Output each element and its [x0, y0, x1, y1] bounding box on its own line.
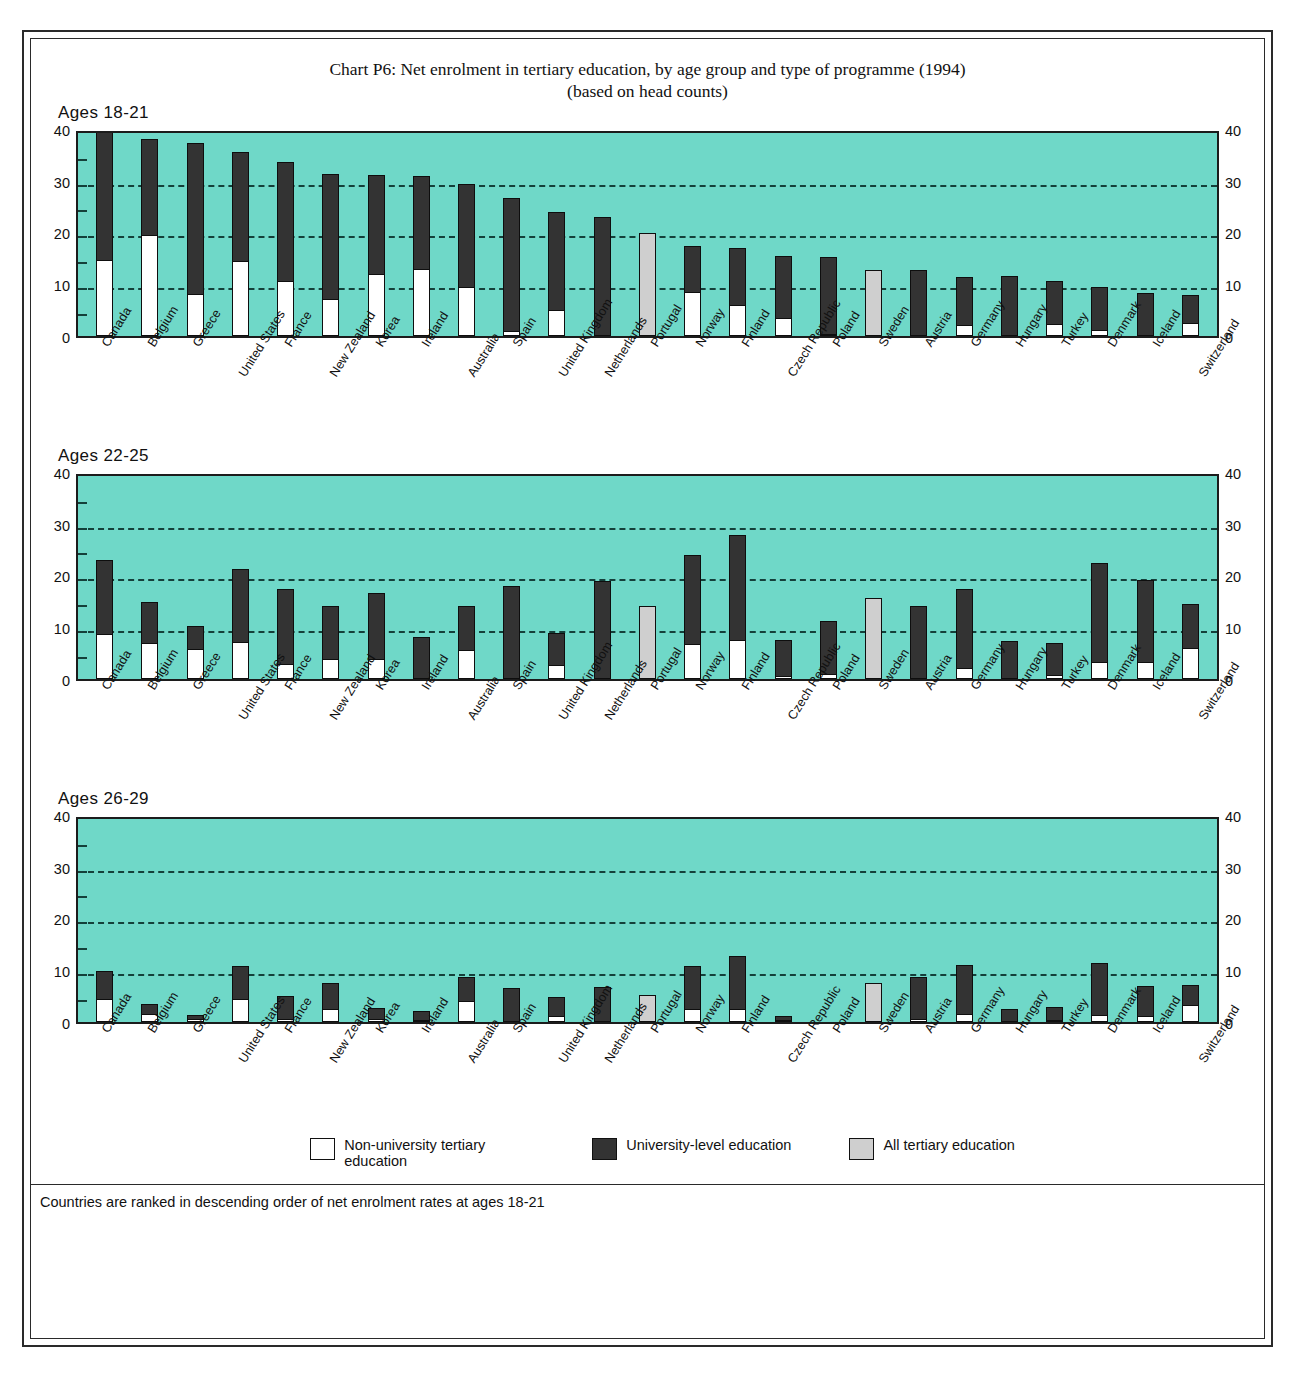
bar-canada[interactable]	[96, 131, 113, 336]
bar-new-zealand[interactable]	[322, 606, 339, 678]
bar-spain[interactable]	[503, 586, 520, 679]
bar-segment-non-university	[1091, 331, 1108, 336]
bar-australia[interactable]	[458, 606, 475, 678]
bar-segment-university	[232, 152, 249, 262]
bar-norway[interactable]	[684, 246, 701, 336]
bar-norway[interactable]	[684, 966, 701, 1022]
bar-finland[interactable]	[729, 248, 746, 336]
bar-denmark[interactable]	[1091, 287, 1108, 336]
bar-segment-non-university	[956, 1015, 973, 1022]
bar-segment-non-university	[232, 262, 249, 336]
y-tick-label: 10	[54, 278, 70, 294]
x-axis-labels: CanadaBelgiumGreeceUnited StatesFranceNe…	[76, 1024, 1219, 1132]
bar-australia[interactable]	[458, 184, 475, 336]
bar-hungary[interactable]	[1001, 1009, 1018, 1022]
bar-segment-non-university	[322, 300, 339, 336]
bar-turkey[interactable]	[1046, 643, 1063, 679]
bar-austria[interactable]	[910, 606, 927, 678]
bar-segment-university	[775, 256, 792, 319]
y-axis-right: 403020100	[1219, 817, 1265, 1024]
bar-segment-university	[232, 966, 249, 1000]
bar-united-states[interactable]	[232, 152, 249, 336]
bar-segment-non-university	[775, 1021, 792, 1022]
legend-swatch-all-tertiary-icon	[849, 1138, 874, 1160]
bar-segment-non-university	[1046, 325, 1063, 336]
bar-segment-university	[729, 248, 746, 306]
legend-label-non-university: Non-university tertiary education	[344, 1138, 534, 1170]
bar-segment-university	[96, 560, 113, 635]
bar-segment-university	[956, 589, 973, 669]
bar-segment-university	[277, 162, 294, 283]
bar-segment-non-university	[1091, 1016, 1108, 1022]
bar-switzerland[interactable]	[1182, 985, 1199, 1022]
y-tick-label: 20	[1225, 569, 1241, 585]
panel-title: Ages 18-21	[58, 103, 1265, 123]
bar-finland[interactable]	[729, 535, 746, 679]
bar-switzerland[interactable]	[1182, 295, 1199, 335]
bar-segment-university	[1182, 604, 1199, 649]
bar-united-kingdom[interactable]	[548, 633, 565, 679]
legend-swatch-non-university-icon	[310, 1138, 335, 1160]
bar-sweden[interactable]	[865, 983, 882, 1022]
bar-new-zealand[interactable]	[322, 983, 339, 1022]
bar-segment-university	[1182, 985, 1199, 1007]
bar-ireland[interactable]	[413, 176, 430, 336]
bar-switzerland[interactable]	[1182, 604, 1199, 679]
bar-new-zealand[interactable]	[322, 174, 339, 335]
bar-segment-non-university	[1046, 1021, 1063, 1022]
y-tick-label: 40	[1225, 466, 1241, 482]
bar-denmark[interactable]	[1091, 563, 1108, 678]
bar-segment-non-university	[956, 669, 973, 678]
bar-iceland[interactable]	[1137, 293, 1154, 335]
bar-segment-non-university	[775, 677, 792, 679]
y-tick-label: 10	[54, 964, 70, 980]
y-tick-label: 20	[1225, 226, 1241, 242]
bar-iceland[interactable]	[1137, 580, 1154, 678]
bar-australia[interactable]	[458, 977, 475, 1022]
bar-greece[interactable]	[187, 143, 204, 336]
panels-container: Ages 18-21403020100403020100CanadaBelgiu…	[30, 103, 1265, 1132]
bar-sweden[interactable]	[865, 270, 882, 336]
bar-czech-republic[interactable]	[775, 1016, 792, 1022]
y-axis-left: 403020100	[30, 131, 76, 338]
bar-austria[interactable]	[910, 977, 927, 1022]
bar-norway[interactable]	[684, 555, 701, 679]
bar-united-kingdom[interactable]	[548, 997, 565, 1021]
panel-title: Ages 22-25	[58, 446, 1265, 466]
bar-sweden[interactable]	[865, 598, 882, 679]
bar-united-kingdom[interactable]	[548, 212, 565, 336]
bar-spain[interactable]	[503, 198, 520, 336]
bar-belgium[interactable]	[141, 139, 158, 336]
bar-germany[interactable]	[956, 589, 973, 679]
bar-segment-non-university	[232, 1000, 249, 1022]
bar-segment-university	[548, 633, 565, 666]
bar-segment-non-university	[1182, 1006, 1199, 1022]
legend-item-university: University-level education	[592, 1138, 791, 1170]
bar-germany[interactable]	[956, 965, 973, 1022]
bar-segment-university	[956, 965, 973, 1015]
legend-label-all-tertiary: All tertiary education	[883, 1138, 1014, 1154]
y-tick-label: 20	[54, 912, 70, 928]
bar-segment-university	[187, 143, 204, 296]
bar-germany[interactable]	[956, 277, 973, 336]
bar-denmark[interactable]	[1091, 963, 1108, 1022]
bar-segment-non-university	[1137, 1017, 1154, 1022]
bar-austria[interactable]	[910, 270, 927, 336]
y-tick-label: 40	[54, 809, 70, 825]
x-axis-labels: CanadaBelgiumGreeceUnited StatesFranceNe…	[76, 681, 1219, 789]
bar-canada[interactable]	[96, 560, 113, 679]
chart-content: Chart P6: Net enrolment in tertiary educ…	[30, 38, 1265, 1339]
bar-finland[interactable]	[729, 956, 746, 1022]
y-tick-label: 40	[1225, 123, 1241, 139]
bar-segment-non-university	[1137, 663, 1154, 679]
x-axis-labels: CanadaBelgiumGreeceUnited StatesFranceNe…	[76, 338, 1219, 446]
bar-segment-university	[729, 956, 746, 1010]
bar-united-states[interactable]	[232, 966, 249, 1022]
bar-turkey[interactable]	[1046, 1007, 1063, 1021]
chart-panel-2: Ages 22-25403020100403020100CanadaBelgiu…	[30, 446, 1265, 789]
bar-czech-republic[interactable]	[775, 256, 792, 336]
bar-segment-non-university	[775, 319, 792, 336]
bar-segment-non-university	[548, 1017, 565, 1022]
bar-czech-republic[interactable]	[775, 640, 792, 679]
bar-united-states[interactable]	[232, 569, 249, 679]
